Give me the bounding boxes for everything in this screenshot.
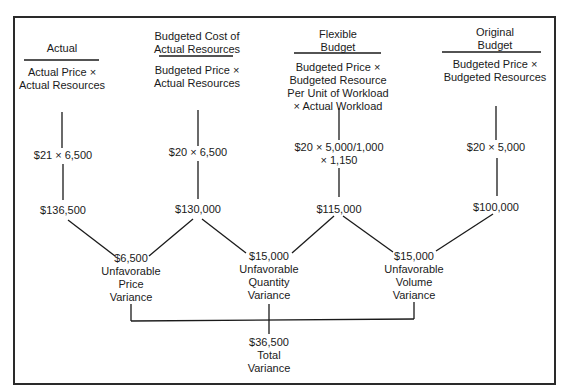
formula-flexible: Budgeted Price × Budgeted Resource Per U…	[287, 61, 388, 113]
formula-actual: Actual Price × Actual Resources	[19, 66, 105, 92]
calc-original: $20 × 5,000	[467, 141, 525, 154]
column-header-flexible: Flexible Budget	[319, 28, 357, 54]
column-header-actual: Actual	[47, 42, 78, 55]
amount-actual: $136,500	[40, 204, 86, 217]
column-header-budgeted-cost: Budgeted Cost of Actual Resources	[154, 30, 240, 56]
amount-flexible: $115,000	[316, 203, 361, 216]
total-variance: $36,500 Total Variance	[248, 336, 291, 375]
amount-budgeted-cost: $130,000	[175, 203, 221, 216]
calc-budgeted-cost: $20 × 6,500	[169, 146, 227, 159]
volume-variance: $15,000 Unfavorable Volume Variance	[384, 250, 443, 302]
amount-original: $100,000	[473, 201, 519, 214]
formula-budgeted-cost: Budgeted Price × Actual Resources	[154, 64, 240, 90]
quantity-variance: $15,000 Unfavorable Quantity Variance	[239, 250, 298, 302]
column-header-original: Original Budget	[476, 26, 514, 52]
formula-original: Budgeted Price × Budgeted Resources	[444, 58, 547, 84]
calc-actual: $21 × 6,500	[34, 149, 92, 162]
calc-flexible: $20 × 5,000/1,000 × 1,150	[295, 141, 384, 167]
price-variance: $6,500 Unfavorable Price Variance	[101, 252, 160, 304]
